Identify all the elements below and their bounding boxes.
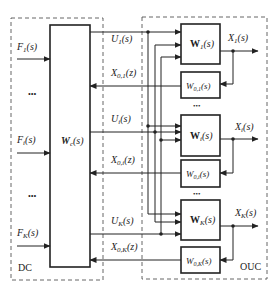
input-fi-label: Fi(s) bbox=[16, 134, 36, 147]
uk-label: UK(s) bbox=[111, 215, 134, 228]
output-xk-label: XK(s) bbox=[234, 207, 257, 220]
x01-label: X0,1(z) bbox=[110, 67, 137, 80]
ellipsis-inputs-1: ••• bbox=[28, 90, 37, 99]
input-f1-label: F1(s) bbox=[16, 41, 38, 54]
ellipsis-inputs-2: ••• bbox=[28, 192, 37, 201]
input-fk-label: FK(s) bbox=[16, 227, 39, 240]
xi-feedback-wire bbox=[220, 139, 233, 173]
ellipsis-blocks-2: ••• bbox=[193, 190, 201, 198]
output-xi-label: Xi(s) bbox=[234, 121, 254, 134]
u1-label: U1(s) bbox=[111, 33, 133, 46]
output-x1-label: X1(s) bbox=[227, 32, 249, 45]
dc-label: DC bbox=[18, 262, 32, 273]
x0k-label: X0,K(z) bbox=[110, 241, 138, 254]
ouc-label: OUC bbox=[240, 261, 261, 272]
x1-feedback-wire bbox=[220, 51, 233, 84]
block-diagram: DC OUC Wc(s) F1(s) ••• Fi(s) ••• FK(s) U… bbox=[0, 0, 276, 293]
xk-feedback-wire bbox=[220, 226, 233, 260]
ellipsis-blocks-1: ••• bbox=[193, 102, 201, 110]
ui-label: Ui(s) bbox=[111, 113, 131, 126]
x0i-label: X0,i(z) bbox=[110, 154, 136, 167]
